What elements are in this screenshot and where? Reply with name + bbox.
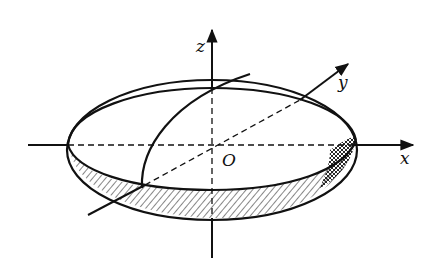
diagram-canvas [0, 0, 438, 276]
upper-rim [68, 88, 356, 145]
x-axis-label: x [400, 150, 410, 167]
y-axis-label: y [338, 74, 348, 91]
origin-label: O [222, 152, 236, 169]
z-axis-label: z [196, 38, 205, 55]
ellipsoid-diagram: z y x O [0, 0, 438, 276]
y-axis-hidden [145, 100, 300, 185]
